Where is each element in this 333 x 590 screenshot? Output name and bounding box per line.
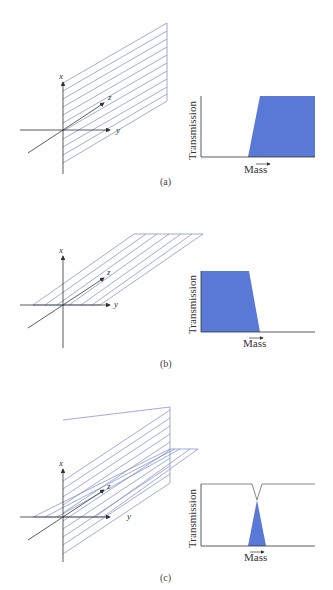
panel-a-xlabel: Mass — [244, 163, 267, 175]
panel-b-z-axis-label: z — [107, 267, 111, 277]
panel-c-plane — [33, 407, 198, 554]
panel-b-caption: (b) — [160, 358, 172, 369]
panel-c-x-axis-label: x — [59, 458, 63, 468]
panel-a-caption: (a) — [160, 176, 171, 187]
panel-a-x-axis-label: x — [59, 71, 63, 81]
panel-a-z-axis-label: z — [108, 92, 112, 102]
panel-a-plane — [63, 23, 167, 163]
panel-a-graph — [201, 96, 315, 164]
panel-c-ylabel: Transmission — [186, 489, 198, 548]
panel-a-y-axis-label: y — [116, 125, 120, 135]
panel-b-graph — [201, 271, 315, 338]
panel-a-ylabel: Transmission — [186, 101, 198, 160]
panel-c-caption: (c) — [160, 572, 171, 583]
panel-c-y-axis-label: y — [127, 511, 131, 521]
panel-c-xlabel: Mass — [244, 551, 267, 563]
panel-b-x-axis-label: x — [59, 245, 63, 255]
panel-c-graph — [201, 484, 315, 552]
panel-b-xlabel: Mass — [243, 337, 266, 349]
panel-c-z-axis-label: z — [107, 481, 111, 491]
panel-b-y-axis-label: y — [114, 299, 118, 309]
panel-b-ylabel: Transmission — [186, 275, 198, 334]
figure-canvas — [0, 0, 333, 590]
